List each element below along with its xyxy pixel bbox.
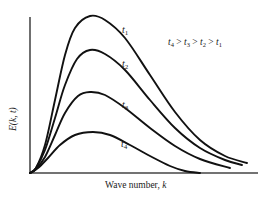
curve-t3 xyxy=(30,92,230,173)
curve-label-t3: t3 xyxy=(122,99,129,112)
y-axis-label: E(k, t) xyxy=(8,107,19,132)
energy-spectrum-chart: t1 t2 t3 t4 t4 > t3 > t2 > t1 Wave numbe… xyxy=(0,0,273,198)
curve-t4 xyxy=(30,132,200,173)
curve-label-t4: t4 xyxy=(121,138,128,151)
x-axis-label: Wave number, k xyxy=(105,180,167,190)
time-order-annotation: t4 > t3 > t2 > t1 xyxy=(168,37,222,48)
